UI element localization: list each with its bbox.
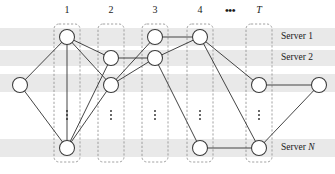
column-ellipsis-3 <box>154 110 156 120</box>
ellipsis-dot <box>110 118 112 120</box>
node-slot4-serverN[interactable] <box>193 141 208 156</box>
node-source-node[interactable] <box>13 78 28 93</box>
network-diagram-figure: 1234T•••Server 1Server 2Server N <box>0 0 335 174</box>
node-slot4-server1[interactable] <box>193 30 208 45</box>
row-label-3: Server N <box>281 142 315 152</box>
ellipsis-dot <box>66 110 68 112</box>
row-label-text: Server <box>281 31 308 41</box>
ellipsis-dot <box>258 118 260 120</box>
ellipsis-dot <box>258 110 260 112</box>
ellipsis-dot <box>154 118 156 120</box>
column-label-2: 2 <box>109 4 114 15</box>
ellipsis-dot <box>199 118 201 120</box>
node-slot2-server2[interactable] <box>104 51 119 66</box>
column-label-3: 3 <box>153 4 158 15</box>
column-label-5: T <box>256 4 263 15</box>
row-label-text: Server <box>281 52 308 62</box>
edge-c1b-to-c2a <box>67 58 111 148</box>
node-slot3-server2[interactable] <box>148 51 163 66</box>
column-ellipsis-5 <box>258 110 260 120</box>
edge-cTb-to-out <box>259 85 319 148</box>
edge-c3b-to-c4b <box>155 58 200 148</box>
node-slot3-server1[interactable] <box>148 30 163 45</box>
column-ellipsis-1 <box>66 110 68 120</box>
edge-c1b-to-c2b <box>67 85 111 148</box>
column-label-1: 1 <box>65 4 70 15</box>
ellipsis-dot <box>66 118 68 120</box>
ellipsis-dot <box>258 114 260 116</box>
node-slot2-row3[interactable] <box>104 78 119 93</box>
ellipsis-dot <box>66 114 68 116</box>
row-label-text: Server <box>281 142 308 152</box>
diagram-canvas: 1234T•••Server 1Server 2Server N <box>0 0 335 174</box>
column-label-4: 4 <box>198 4 203 15</box>
node-slot1-server1[interactable] <box>60 30 75 45</box>
ellipsis-dot <box>154 114 156 116</box>
row-label-index: N <box>307 142 315 152</box>
node-sink-node[interactable] <box>312 78 327 93</box>
horizontal-ellipsis: ••• <box>225 4 236 16</box>
edge-in-to-c1b <box>20 85 67 148</box>
row-label-index: 1 <box>308 31 313 41</box>
ellipsis-dot <box>110 110 112 112</box>
node-slotT-serverN[interactable] <box>252 141 267 156</box>
ellipsis-dot <box>110 114 112 116</box>
row-label-2: Server 2 <box>281 52 313 62</box>
ellipsis-dot <box>199 114 201 116</box>
column-ellipsis-4 <box>199 110 201 120</box>
node-slot1-serverN[interactable] <box>60 141 75 156</box>
row-label-index: 2 <box>308 52 313 62</box>
row-label-1: Server 1 <box>281 31 313 41</box>
ellipsis-dot <box>199 110 201 112</box>
node-slotT-row3[interactable] <box>252 78 267 93</box>
ellipsis-dot <box>154 110 156 112</box>
column-ellipsis-2 <box>110 110 112 120</box>
